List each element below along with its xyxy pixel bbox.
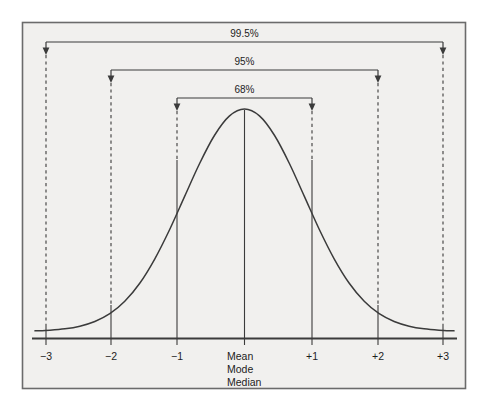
distribution-chart: 99.5% 95% 68% [0, 0, 488, 411]
tick-label-minus1: −1 [171, 350, 183, 362]
tick-label-plus1: +1 [306, 350, 318, 362]
normal-distribution-figure: 99.5% 95% 68% [0, 0, 488, 411]
tick-label-plus2: +2 [372, 350, 384, 362]
center-label-mean: Mean [227, 350, 253, 362]
tick-label-plus3: +3 [437, 350, 449, 362]
center-label-median: Median [227, 376, 262, 388]
bracket-995-label: 99.5% [230, 28, 258, 39]
tick-label-minus3: −3 [40, 350, 52, 362]
tick-label-minus2: −2 [105, 350, 117, 362]
center-label-mode: Mode [227, 363, 253, 375]
bracket-95-label: 95% [234, 56, 254, 67]
bracket-68-label: 68% [234, 84, 254, 95]
